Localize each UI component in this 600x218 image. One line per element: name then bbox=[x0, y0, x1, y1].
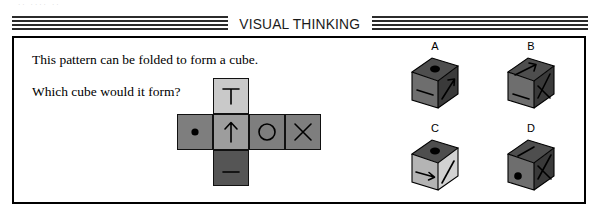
option-d[interactable]: D bbox=[502, 122, 598, 200]
option-c[interactable]: C bbox=[406, 122, 502, 200]
banner-stripes-left bbox=[12, 16, 228, 31]
net-cell-left bbox=[177, 114, 213, 150]
prompt-line-1: This pattern can be folded to form a cub… bbox=[32, 52, 258, 68]
option-c-label: C bbox=[406, 122, 464, 134]
up-arrow-icon bbox=[220, 120, 242, 144]
x-cross-icon bbox=[292, 121, 314, 143]
t-shape-icon bbox=[220, 85, 242, 107]
option-c-cube bbox=[408, 136, 470, 198]
option-a-label: A bbox=[406, 40, 464, 52]
option-d-cube bbox=[504, 136, 566, 198]
option-b-label: B bbox=[502, 40, 560, 52]
answer-options: A bbox=[344, 38, 584, 202]
page-title: VISUAL THINKING bbox=[240, 15, 361, 32]
cube-net-diagram bbox=[177, 78, 321, 186]
option-b[interactable]: B bbox=[502, 40, 598, 118]
minus-bar-icon bbox=[220, 157, 242, 179]
option-a[interactable]: A bbox=[406, 40, 502, 118]
banner-stripes-right bbox=[372, 16, 588, 31]
circle-outline-icon bbox=[256, 121, 278, 143]
net-cell-far-right bbox=[285, 114, 321, 150]
filled-dot-icon bbox=[185, 122, 205, 142]
net-cell-right bbox=[249, 114, 285, 150]
scan-artifact-text: ·· ···· ·· bbox=[18, 1, 138, 8]
exercise-frame: This pattern can be folded to form a cub… bbox=[12, 36, 586, 204]
worksheet-page: ·· ···· ·· VISUAL THINKING This pattern … bbox=[0, 0, 600, 218]
option-b-cube bbox=[504, 54, 566, 116]
option-a-cube bbox=[408, 54, 470, 116]
net-cell-bottom bbox=[213, 150, 249, 186]
net-cell-top bbox=[213, 78, 249, 114]
prompt-line-2: Which cube would it form? bbox=[32, 84, 180, 100]
option-d-label: D bbox=[502, 122, 560, 134]
net-cell-center bbox=[213, 114, 249, 150]
section-banner: VISUAL THINKING bbox=[12, 14, 588, 33]
